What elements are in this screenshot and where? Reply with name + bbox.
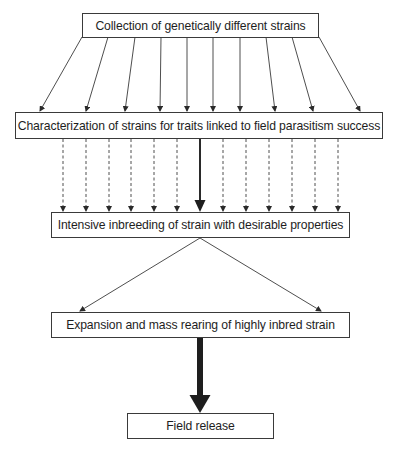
flowchart-diagram: Collection of genetically different stra… xyxy=(0,0,399,453)
node-expansion-label: Expansion and mass rearing of highly inb… xyxy=(66,318,335,332)
node-characterization-label: Characterization of strains for traits l… xyxy=(18,119,381,133)
node-expansion: Expansion and mass rearing of highly inb… xyxy=(51,312,350,338)
expansion-to-release-thick-arrow xyxy=(190,338,211,413)
node-inbreeding: Intensive inbreeding of strain with desi… xyxy=(51,212,350,238)
node-collection: Collection of genetically different stra… xyxy=(82,13,319,38)
node-field-release-label: Field release xyxy=(166,419,234,433)
node-field-release: Field release xyxy=(127,413,274,439)
node-inbreeding-label: Intensive inbreeding of strain with desi… xyxy=(58,218,344,232)
characterization-to-inbreeding-main-arrow xyxy=(195,139,206,212)
collection-to-characterization-arrows xyxy=(40,37,360,111)
node-characterization: Characterization of strains for traits l… xyxy=(15,112,383,139)
inbreeding-to-expansion-arrows xyxy=(80,238,321,311)
node-collection-label: Collection of genetically different stra… xyxy=(95,19,305,33)
